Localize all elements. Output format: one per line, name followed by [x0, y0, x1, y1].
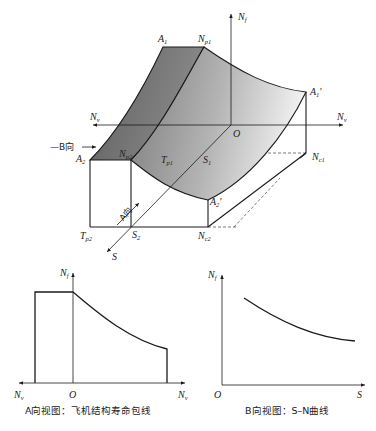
view-b-label: —B向 — [50, 141, 74, 152]
label-a1-prime: A1' — [309, 86, 322, 98]
label-nf: Nf — [237, 11, 248, 23]
label-s2: S2 — [132, 229, 141, 241]
s-n-curve — [244, 298, 355, 341]
diagram-3d: A向 —B向 Nf A1 Np1 A1' Nv Nv O A2 Np2 Tp1 … — [50, 11, 347, 262]
view-a-caption: A向视图：飞机结构寿命包线 — [25, 405, 152, 416]
view-a-label-nv-left: Nv — [13, 389, 24, 401]
label-a2: A2 — [75, 153, 86, 165]
life-envelope — [35, 292, 167, 383]
label-a1: A1 — [157, 33, 167, 45]
label-nc1: Nc1 — [311, 151, 325, 163]
label-origin: O — [233, 128, 240, 139]
view-a-label-nv-right: Nv — [177, 389, 188, 401]
label-nc2: Nc2 — [197, 230, 212, 242]
label-tp2: Tp2 — [80, 230, 93, 242]
label-nv-left: Nv — [89, 111, 100, 123]
view-b-plot: Nf O S B向视图：S–N曲线 — [207, 269, 365, 416]
view-a-label-origin: O — [69, 389, 76, 400]
label-np1: Np1 — [197, 33, 211, 45]
view-b-label-nf: Nf — [207, 269, 218, 281]
label-s: S — [112, 251, 117, 262]
view-a-label-nf: Nf — [59, 267, 70, 279]
label-a2-prime: A2' — [209, 196, 222, 208]
view-b-caption: B向视图：S–N曲线 — [245, 405, 329, 416]
view-b-label-origin: O — [214, 389, 221, 400]
life-envelope-diagram: A向 —B向 Nf A1 Np1 A1' Nv Nv O A2 Np2 Tp1 … — [0, 0, 376, 431]
view-b-label-s: S — [357, 389, 362, 400]
label-nv-right: Nv — [336, 111, 347, 123]
view-a-plot: Nf Nv O Nv A向视图：飞机结构寿命包线 — [13, 267, 188, 416]
